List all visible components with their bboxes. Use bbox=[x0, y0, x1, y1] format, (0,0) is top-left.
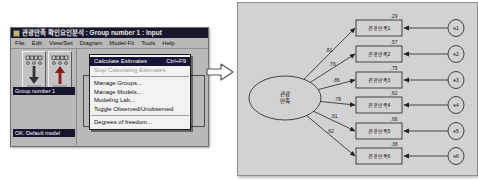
smc-value: .57 bbox=[391, 39, 398, 45]
group-list-item[interactable]: Group number 1 bbox=[13, 87, 75, 95]
error-term-label: e5 bbox=[453, 128, 459, 134]
error-term-label: e6 bbox=[453, 153, 459, 159]
menu-bar: FileEditView/SetDiagramModel-FitToolsHel… bbox=[11, 38, 208, 49]
menu-help[interactable]: Help bbox=[162, 40, 174, 46]
menu-file[interactable]: File bbox=[15, 40, 25, 46]
path-diagram-panel: 관광만족관광만족1.29e1.81관광만족2.57e2.76관광만족3.75e3… bbox=[237, 2, 478, 176]
menu-item-label: Degrees of freedom... bbox=[94, 118, 152, 127]
loading-value: .81 bbox=[331, 113, 338, 119]
loading-arrow bbox=[321, 102, 355, 105]
menu-tools[interactable]: Tools bbox=[141, 40, 155, 46]
smc-value: .75 bbox=[391, 65, 398, 71]
arrow-right-icon bbox=[206, 61, 234, 83]
menu-item-manage-models[interactable]: Manage Models... bbox=[90, 88, 190, 97]
indicator-label: 관광만족1 bbox=[368, 25, 391, 32]
error-term-label: e4 bbox=[453, 102, 459, 108]
smc-value: .38 bbox=[391, 141, 398, 147]
sem-path-diagram: 관광만족관광만족1.29e1.81관광만족2.57e2.76관광만족3.75e3… bbox=[238, 3, 477, 175]
title-bar: 관광만족 확인요인분석 : Group number 1 : Input bbox=[11, 28, 208, 38]
menu-edit[interactable]: Edit bbox=[32, 40, 42, 46]
loading-arrow bbox=[307, 116, 355, 156]
indicator-label: 관광만족5 bbox=[368, 128, 391, 135]
loading-arrow bbox=[304, 28, 355, 79]
menu-separator bbox=[91, 115, 189, 116]
menu-item-manage-groups[interactable]: Manage Groups... bbox=[90, 79, 190, 88]
indicator-label: 관광만족6 bbox=[368, 153, 391, 160]
window-body: Group number 1 OK: Default model Calcula… bbox=[11, 49, 208, 145]
menu-item-degrees-of-freedom[interactable]: Degrees of freedom... bbox=[90, 118, 190, 127]
loading-value: .86 bbox=[333, 77, 340, 83]
smc-value: .29 bbox=[391, 13, 398, 19]
latent-variable-label: 관광만족 bbox=[280, 90, 290, 105]
menu-item-calculate-estimates[interactable]: Calculate EstimatesCtrl+F9 bbox=[90, 57, 190, 66]
menu-model-fit[interactable]: Model-Fit bbox=[109, 40, 134, 46]
loading-value: .76 bbox=[329, 61, 336, 67]
model-fit-menu: Calculate EstimatesCtrl+F9Stop Calculati… bbox=[89, 54, 191, 130]
panel-divider bbox=[76, 49, 77, 145]
error-term-label: e1 bbox=[453, 25, 459, 31]
menu-item-label: Toggle Observed/Unobserved bbox=[94, 105, 173, 114]
app-icon bbox=[13, 30, 20, 37]
menu-item-label: Manage Models... bbox=[94, 88, 142, 97]
menu-item-toggle-observed-unobserved[interactable]: Toggle Observed/Unobserved bbox=[90, 105, 190, 114]
error-term-label: e2 bbox=[453, 51, 459, 57]
menu-item-label: Calculate Estimates bbox=[94, 57, 147, 66]
window-title: 관광만족 확인요인분석 : Group number 1 : Input bbox=[22, 28, 162, 38]
loading-value: .81 bbox=[325, 47, 332, 53]
smc-value: .66 bbox=[391, 116, 398, 122]
indicator-label: 관광만족2 bbox=[368, 51, 391, 58]
menu-item-shortcut: Ctrl+F9 bbox=[166, 57, 186, 66]
indicator-label: 관광만족4 bbox=[368, 102, 391, 109]
amos-window: 관광만족 확인요인분석 : Group number 1 : Input Fil… bbox=[10, 27, 209, 147]
model-list-item[interactable]: OK: Default model bbox=[13, 129, 75, 137]
transition-arrow bbox=[206, 61, 234, 87]
output-path-diagram-icon bbox=[51, 55, 69, 89]
menu-item-label: Manage Groups... bbox=[94, 79, 142, 88]
menu-diagram[interactable]: Diagram bbox=[80, 40, 103, 46]
indicator-label: 관광만족3 bbox=[368, 77, 391, 84]
menu-separator bbox=[91, 76, 189, 77]
menu-item-stop-calculating-estimates: Stop Calculating Estimates bbox=[90, 66, 190, 75]
loading-value: .62 bbox=[327, 128, 334, 134]
input-path-diagram-icon bbox=[25, 55, 43, 89]
menu-item-label: Stop Calculating Estimates bbox=[94, 66, 166, 75]
menu-view-set[interactable]: View/Set bbox=[49, 40, 73, 46]
loading-value: .78 bbox=[334, 96, 341, 102]
menu-item-modeling-lab[interactable]: Modeling Lab... bbox=[90, 96, 190, 105]
error-term-label: e3 bbox=[453, 77, 459, 83]
menu-item-label: Modeling Lab... bbox=[94, 96, 135, 105]
smc-value: .62 bbox=[391, 90, 398, 96]
